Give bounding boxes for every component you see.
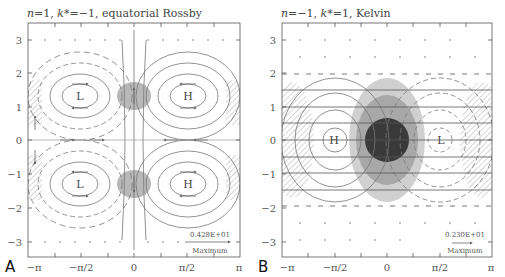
svg-text:−1: −1	[7, 169, 22, 180]
low-pressure-label: L	[437, 134, 445, 147]
svg-text:2: 2	[270, 68, 276, 79]
svg-text:2: 2	[16, 68, 22, 79]
svg-text:1: 1	[16, 102, 22, 113]
panel-b-y-axis: 3 2 1 0 −1 −2 −3	[261, 35, 276, 248]
svg-text:Maximum: Maximum	[192, 247, 228, 255]
panel-b-letter: B	[258, 258, 268, 276]
svg-text:−π/2: −π/2	[69, 262, 94, 273]
low-pressure-label: L	[76, 178, 84, 191]
svg-text:3: 3	[16, 35, 22, 46]
panel-b-x-axis: −π −π/2 0 π/2 π	[280, 262, 495, 273]
svg-text:0: 0	[270, 135, 276, 146]
panel-a-title: n=1, k*=−1, equatorial Rossby	[27, 7, 203, 20]
svg-text:−π/2: −π/2	[323, 262, 348, 273]
svg-text:0: 0	[131, 262, 137, 273]
svg-text:0: 0	[384, 262, 390, 273]
figure-canvas: n=1, k*=−1, equatorial Rossby	[0, 0, 505, 277]
svg-text:0: 0	[16, 135, 22, 146]
panel-a-y-axis: 3 2 1 0 −1 −2 −3	[7, 35, 22, 248]
svg-text:−2: −2	[7, 203, 22, 214]
panel-b-title: n=−1, k*=1, Kelvin	[281, 7, 391, 20]
svg-text:−π: −π	[280, 262, 295, 273]
high-pressure-label: H	[329, 134, 339, 147]
svg-text:−3: −3	[261, 237, 276, 248]
panel-b-plot-area: H L	[270, 39, 504, 241]
panel-a-plot-area: L H L H	[28, 30, 240, 250]
svg-text:0.230E+01: 0.230E+01	[445, 231, 485, 239]
panel-b: n=−1, k*=1, Kelvin	[258, 7, 504, 276]
svg-text:−1: −1	[261, 169, 276, 180]
svg-text:π/2: π/2	[432, 262, 448, 273]
svg-text:−3: −3	[7, 237, 22, 248]
reference-vector-legend: 0.428E+01 Maximum	[185, 231, 237, 255]
svg-text:1: 1	[270, 102, 276, 113]
panel-a: n=1, k*=−1, equatorial Rossby	[5, 7, 243, 276]
panel-a-x-axis: −π −π/2 0 π/2 π	[27, 262, 243, 273]
high-pressure-label: H	[183, 178, 193, 191]
panel-a-letter: A	[5, 258, 16, 276]
svg-text:3: 3	[270, 35, 276, 46]
high-pressure-label: H	[183, 90, 193, 103]
svg-text:π/2: π/2	[179, 262, 195, 273]
svg-text:−2: −2	[261, 203, 276, 214]
svg-text:π: π	[488, 262, 495, 273]
reference-vector-legend: 0.230E+01 Maximum	[440, 231, 490, 255]
low-pressure-label: L	[76, 90, 84, 103]
svg-text:Maximum: Maximum	[447, 247, 483, 255]
svg-text:π: π	[236, 262, 243, 273]
svg-text:0.428E+01: 0.428E+01	[190, 231, 230, 239]
svg-text:−π: −π	[27, 262, 42, 273]
